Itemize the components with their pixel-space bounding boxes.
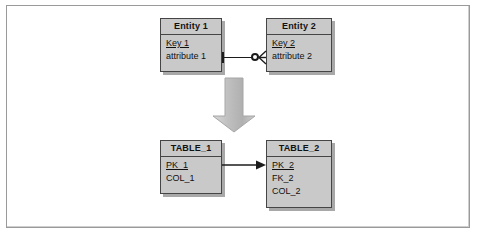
table-1-column-list: PK_1 COL_1 <box>161 157 221 187</box>
er-relationship-line <box>222 57 254 58</box>
entity-1-attribute-key: Key 1 <box>166 37 221 50</box>
table-box-table-1[interactable]: TABLE_1 PK_1 COL_1 <box>160 140 222 194</box>
table-1-column-pk: PK_1 <box>166 159 221 172</box>
table-1-header: TABLE_1 <box>161 141 221 157</box>
entity-2-header: Entity 2 <box>267 19 331 35</box>
table-1-column-col: COL_1 <box>166 172 221 185</box>
table-2-column-pk: PK_2 <box>272 159 331 172</box>
entity-1-attribute-list: Key 1 attribute 1 <box>161 35 221 65</box>
diagram-frame <box>6 5 470 228</box>
entity-1-attribute-1: attribute 1 <box>166 50 221 63</box>
table-2-column-fk: FK_2 <box>272 172 331 185</box>
er-cardinality-one-tick <box>222 52 224 63</box>
table-2-column-col: COL_2 <box>272 185 331 198</box>
entity-2-attribute-key: Key 2 <box>272 37 331 50</box>
entity-box-entity-2[interactable]: Entity 2 Key 2 attribute 2 <box>266 18 332 72</box>
entity-box-entity-1[interactable]: Entity 1 Key 1 attribute 1 <box>160 18 222 72</box>
entity-2-attribute-list: Key 2 attribute 2 <box>267 35 331 65</box>
entity-2-attribute-1: attribute 2 <box>272 50 331 63</box>
er-cardinality-optional-circle <box>251 53 259 61</box>
er-to-relational-diagram: Entity 1 Key 1 attribute 1 Entity 2 Key … <box>0 0 482 245</box>
entity-1-header: Entity 1 <box>161 19 221 35</box>
table-box-table-2[interactable]: TABLE_2 PK_2 FK_2 COL_2 <box>266 140 332 208</box>
table-2-column-list: PK_2 FK_2 COL_2 <box>267 157 331 200</box>
table-2-header: TABLE_2 <box>267 141 331 157</box>
